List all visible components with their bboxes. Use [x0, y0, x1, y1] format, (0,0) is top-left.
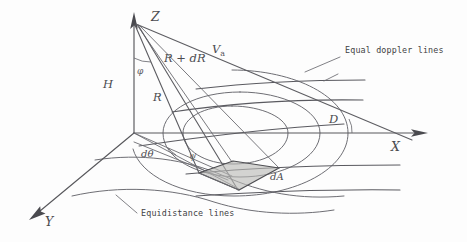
radar-geometry-diagram — [0, 0, 467, 242]
equidistance-annotation-leader — [116, 195, 137, 213]
y-axis-label: Y — [45, 216, 53, 229]
x-axis-label: X — [391, 141, 400, 154]
doppler-curve-3 — [139, 124, 344, 146]
doppler-angle-arc — [349, 119, 352, 133]
figure-canvas: Z X Y H φ R R + dR Va D dθ ψ dA Equal do… — [0, 0, 467, 242]
doppler-angle-label: D — [329, 114, 338, 126]
grazing-angle-label: ψ — [189, 152, 196, 161]
resolution-cell-dA — [199, 161, 279, 190]
range-label: R — [153, 92, 162, 104]
doppler-annotation-leader — [305, 57, 340, 72]
area-cell-label: dA — [270, 172, 284, 182]
equidistance-lines-annotation: Equidistance lines — [141, 209, 234, 217]
z-axis-label: Z — [151, 11, 160, 24]
depression-angle-label: φ — [137, 67, 143, 76]
velocity-subscript: a — [220, 49, 225, 58]
azimuth-increment-label: dθ — [141, 149, 153, 159]
velocity-label: Va — [212, 44, 225, 58]
equal-doppler-lines-annotation: Equal doppler lines — [345, 46, 444, 54]
range-increment-label: R + dR — [164, 53, 206, 65]
doppler-curve-2 — [172, 100, 363, 112]
equidistance-curve-group — [72, 70, 348, 213]
doppler-curve-5 — [196, 190, 400, 196]
altitude-label: H — [103, 79, 113, 91]
y-axis-line — [40, 133, 134, 211]
depression-angle-arc — [134, 58, 151, 62]
